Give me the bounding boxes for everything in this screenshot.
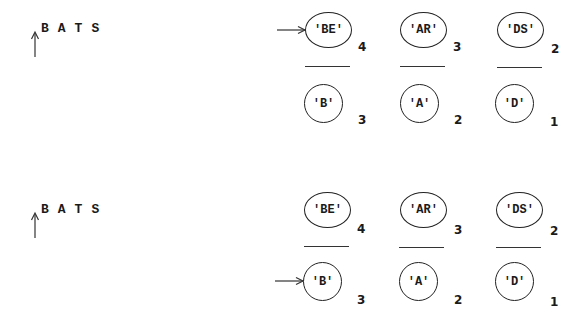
node-top-3: 'DS' bbox=[496, 192, 543, 228]
separator-line bbox=[496, 247, 541, 248]
node-count: 4 bbox=[357, 222, 365, 236]
node-label: 'A' bbox=[408, 275, 430, 289]
node-top-3: 'AR' bbox=[400, 192, 447, 228]
node-bottom-3: 'D' bbox=[495, 262, 534, 301]
node-bottom-3: 'D' bbox=[495, 84, 534, 123]
node-label: 'AR' bbox=[409, 203, 438, 217]
node-count: 2 bbox=[454, 113, 462, 127]
node-count: 3 bbox=[357, 293, 365, 307]
node-count: 2 bbox=[454, 293, 462, 307]
node-label: 'A' bbox=[409, 97, 431, 111]
right-arrow-icon bbox=[274, 276, 306, 286]
node-label: 'DS' bbox=[506, 23, 535, 37]
node-count: 1 bbox=[550, 295, 558, 309]
node-label: 'BE' bbox=[313, 203, 342, 217]
right-arrow-icon bbox=[276, 25, 308, 35]
separator-line bbox=[400, 66, 445, 67]
node-count: 3 bbox=[453, 40, 461, 54]
node-bottom-1: 'B' bbox=[304, 84, 343, 123]
node-label: 'DS' bbox=[505, 203, 534, 217]
node-bottom-2: 'A' bbox=[400, 84, 439, 123]
input-word: BATS bbox=[41, 21, 108, 36]
node-top-1: 'BE' bbox=[304, 192, 351, 228]
separator-line bbox=[305, 66, 350, 67]
node-count: 2 bbox=[550, 224, 558, 238]
node-count: 1 bbox=[550, 115, 558, 129]
up-arrow-icon bbox=[30, 30, 40, 60]
node-bottom-1: 'B' bbox=[303, 262, 342, 301]
node-label: 'B' bbox=[312, 275, 334, 289]
node-top-3: 'DS' bbox=[497, 12, 544, 48]
node-label: 'AR' bbox=[409, 23, 438, 37]
node-label: 'BE' bbox=[314, 23, 343, 37]
separator-line bbox=[497, 67, 542, 68]
separator-line bbox=[399, 247, 444, 248]
node-count: 3 bbox=[454, 223, 462, 237]
node-label: 'D' bbox=[504, 275, 526, 289]
node-count: 2 bbox=[551, 42, 559, 56]
node-bottom-2: 'A' bbox=[399, 262, 438, 301]
node-top-2: 'AR' bbox=[400, 12, 447, 48]
node-label: 'D' bbox=[504, 97, 526, 111]
input-word: BATS bbox=[41, 202, 108, 217]
node-count: 3 bbox=[358, 113, 366, 127]
node-count: 4 bbox=[358, 40, 366, 54]
node-label: 'B' bbox=[313, 97, 335, 111]
up-arrow-icon bbox=[30, 211, 40, 241]
node-top-1: 'BE' bbox=[305, 12, 352, 48]
separator-line bbox=[304, 246, 349, 247]
